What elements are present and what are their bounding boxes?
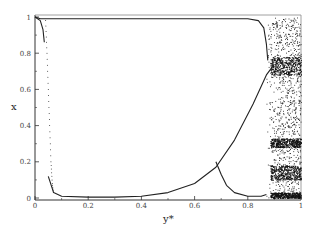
plot-frame [35,15,301,200]
y-tick-label: 0.8 [20,50,31,58]
x-tick-label: 0.8 [242,202,253,210]
dotted-transition [45,20,54,193]
y-tick-label: 1 [27,14,31,22]
ticks [35,17,301,200]
chaotic-scatter-region [266,18,302,199]
curves [35,17,274,197]
y-tick-label: 0 [27,195,31,203]
x-tick-label: 1 [299,202,303,210]
x-tick-label: 0.6 [189,202,201,210]
tick-labels: 00.20.40.60.8100.20.40.60.81 [20,14,303,211]
y-tick-label: 0.6 [20,86,32,94]
y-tick-label: 0.4 [20,122,32,130]
lower-branch-falling [216,162,267,196]
bifurcation-chart: 00.20.40.60.8100.20.40.60.81 y* x [0,0,317,230]
y-tick-label: 0.2 [20,158,31,166]
x-tick-label: 0.2 [83,202,94,210]
upper-left-drop [35,17,44,42]
upper-stable-branch [35,17,268,60]
lower-branch-rising [48,64,274,197]
x-axis-label: y* [162,213,174,224]
y-axis-label: x [11,101,17,112]
x-tick-label: 0.4 [136,202,148,210]
x-tick-label: 0 [33,202,37,210]
